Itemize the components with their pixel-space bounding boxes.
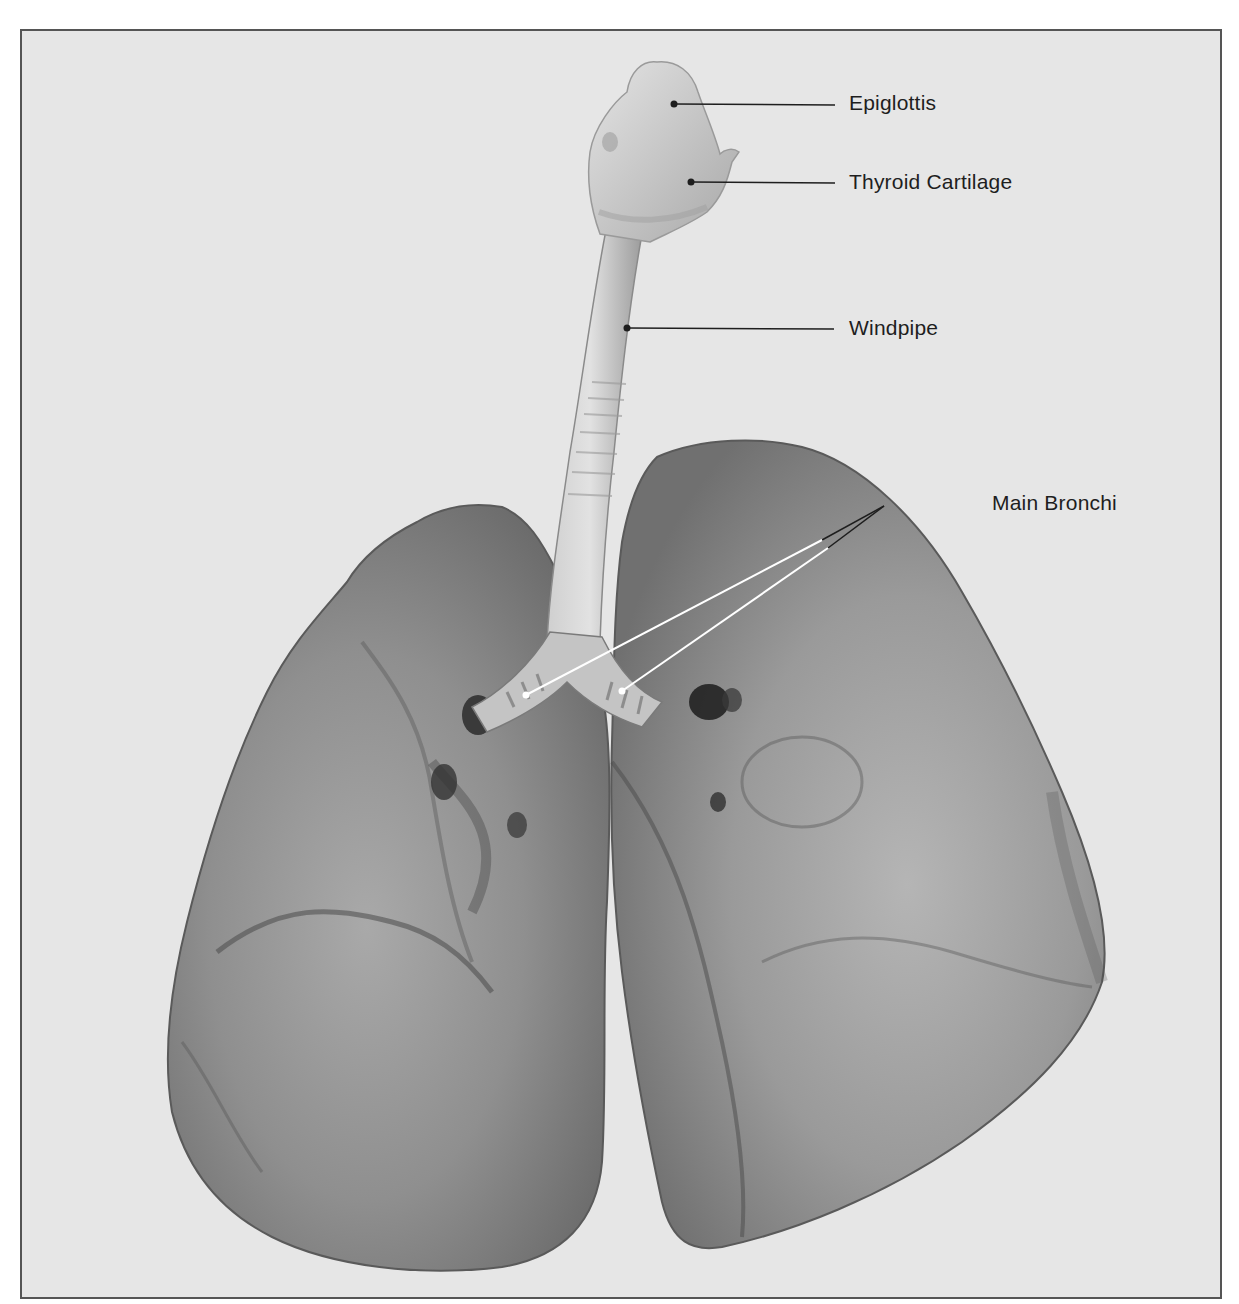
left-lung bbox=[168, 505, 609, 1271]
label-windpipe: Windpipe bbox=[849, 317, 938, 338]
label-thyroid-cartilage: Thyroid Cartilage bbox=[849, 171, 1012, 192]
label-main-bronchi: Main Bronchi bbox=[992, 492, 1117, 513]
figure-frame bbox=[20, 29, 1222, 1299]
right-lung bbox=[611, 440, 1104, 1248]
label-epiglottis: Epiglottis bbox=[849, 92, 936, 113]
lungs-illustration bbox=[22, 31, 1220, 1297]
larynx-illustration bbox=[589, 62, 739, 242]
